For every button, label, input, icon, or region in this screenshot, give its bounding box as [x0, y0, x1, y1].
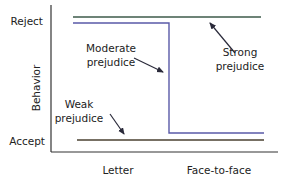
x-tick-letter: Letter [102, 164, 134, 176]
prejudice-behavior-diagram: Reject Accept Behavior Letter Face-to-fa… [0, 0, 288, 181]
y-tick-accept: Accept [9, 135, 45, 147]
moderate-arrow-icon [134, 58, 163, 72]
y-tick-reject: Reject [10, 15, 43, 27]
y-axis-label: Behavior [30, 64, 42, 111]
strong-label-line1: Strong [223, 46, 258, 58]
weak-label-line1: Weak [65, 98, 95, 110]
moderate-label-line2: prejudice [87, 56, 136, 68]
weak-arrow-icon [110, 114, 124, 134]
moderate-label-line1: Moderate [86, 42, 136, 54]
strong-label-line2: prejudice [216, 60, 265, 72]
weak-label-line2: prejudice [55, 112, 104, 124]
x-tick-face-to-face: Face-to-face [187, 164, 251, 176]
